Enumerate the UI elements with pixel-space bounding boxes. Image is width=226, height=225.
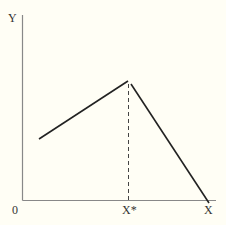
x-axis-label: X bbox=[204, 203, 213, 217]
falling-line-segment bbox=[131, 84, 209, 203]
rising-line-segment bbox=[39, 81, 128, 139]
y-axis-label: Y bbox=[8, 11, 17, 25]
origin-label: 0 bbox=[12, 203, 18, 217]
x-star-label: X* bbox=[122, 203, 137, 217]
chart-canvas: Y 0 X* X bbox=[0, 0, 226, 225]
